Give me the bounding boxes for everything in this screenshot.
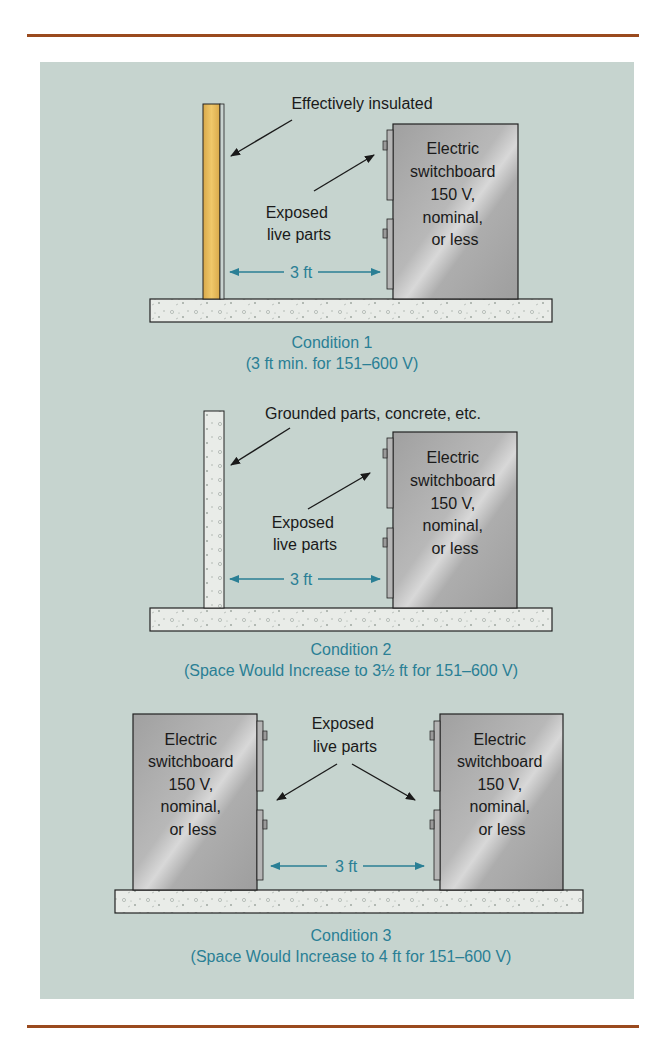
condition-title: Condition 2 — [311, 641, 392, 658]
arrow-icon — [231, 428, 290, 465]
condition-subtitle: (3 ft min. for 151–600 V) — [246, 355, 419, 372]
arrow-icon — [231, 120, 292, 156]
bottom-rule — [27, 1025, 639, 1028]
condition-title: Condition 3 — [311, 927, 392, 944]
wall-label: Grounded parts, concrete, etc. — [265, 405, 481, 422]
exposed-parts-label: Exposed live parts — [266, 204, 333, 243]
exposed-parts-label: Exposed live parts — [272, 514, 339, 553]
floor-slab — [115, 890, 583, 913]
clearance-diagram: Effectively insulated Electric switchboa… — [0, 0, 665, 1040]
grounded-wall — [204, 411, 224, 608]
condition-subtitle: (Space Would Increase to 4 ft for 151–60… — [191, 948, 512, 965]
arrow-icon — [277, 764, 337, 800]
floor-slab — [150, 299, 552, 322]
condition-subtitle: (Space Would Increase to 3½ ft for 151–6… — [184, 662, 518, 679]
condition-2: Grounded parts, concrete, etc. Electric … — [150, 405, 552, 679]
insulated-wall — [203, 104, 220, 299]
wall-label: Effectively insulated — [291, 95, 432, 112]
condition-1: Effectively insulated Electric switchboa… — [150, 95, 552, 372]
distance-label: 3 ft — [335, 858, 358, 875]
exposed-parts-label: Exposed live parts — [312, 715, 379, 755]
arrow-icon — [308, 473, 370, 509]
floor-slab — [150, 608, 552, 631]
arrow-icon — [314, 155, 374, 191]
arrow-icon — [352, 764, 415, 800]
distance-label: 3 ft — [290, 264, 313, 281]
distance-label: 3 ft — [290, 571, 313, 588]
condition-3: Electric switchboard 150 V, nominal, or … — [115, 714, 583, 965]
condition-title: Condition 1 — [292, 334, 373, 351]
